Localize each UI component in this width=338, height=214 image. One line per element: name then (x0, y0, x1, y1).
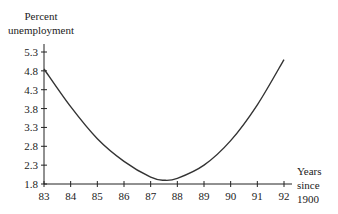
unemployment-chart: 1.82.32.83.33.84.34.85.38384858687888990… (0, 0, 338, 214)
y-tick-label: 2.3 (24, 159, 38, 171)
x-tick-label: 86 (119, 190, 131, 202)
y-axis-label: Percent (25, 10, 58, 22)
y-tick-label: 2.8 (24, 140, 38, 152)
y-tick-label: 1.8 (24, 178, 38, 190)
y-tick-label: 5.3 (24, 46, 38, 58)
y-tick-label: 4.8 (24, 65, 38, 77)
x-tick-label: 89 (199, 190, 211, 202)
y-tick-label: 4.3 (24, 84, 38, 96)
x-axis-label: since (297, 179, 320, 191)
x-tick-label: 91 (252, 190, 263, 202)
x-tick-label: 92 (279, 190, 290, 202)
unemployment-curve (44, 60, 284, 181)
y-axis-label: unemployment (8, 24, 74, 36)
x-axis-label: Years (297, 165, 322, 177)
y-tick-label: 3.8 (24, 103, 38, 115)
x-tick-label: 85 (92, 190, 104, 202)
x-tick-label: 90 (225, 190, 237, 202)
x-axis-label: 1900 (297, 193, 320, 205)
x-tick-label: 83 (39, 190, 51, 202)
y-tick-label: 3.3 (24, 121, 38, 133)
x-tick-label: 87 (145, 190, 157, 202)
x-tick-label: 88 (172, 190, 184, 202)
x-tick-label: 84 (65, 190, 77, 202)
